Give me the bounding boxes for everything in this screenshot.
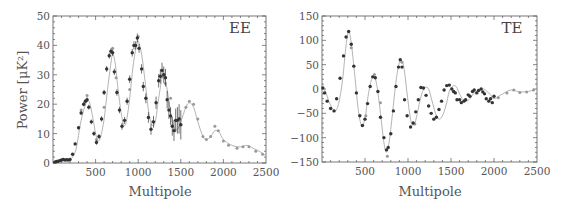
ee-y-axis-label: Power [μK²] (15, 51, 30, 130)
svg-text:150: 150 (299, 10, 319, 22)
svg-text:2500: 2500 (524, 165, 551, 177)
chart-canvas: 500100015002000250001020304050 EE Multip… (0, 0, 564, 204)
svg-text:20: 20 (37, 98, 50, 110)
svg-text:50: 50 (37, 10, 50, 22)
svg-text:2500: 2500 (253, 166, 280, 178)
svg-text:2000: 2000 (210, 166, 237, 178)
ee-panel: 500100015002000250001020304050 EE Multip… (15, 10, 279, 199)
svg-text:500: 500 (86, 166, 106, 178)
svg-text:1000: 1000 (125, 166, 152, 178)
svg-text:1500: 1500 (438, 165, 465, 177)
te-model-curve (322, 32, 537, 153)
svg-text:0: 0 (43, 157, 50, 169)
svg-text:−150: −150 (290, 156, 319, 168)
ee-x-axis-label: Multipole (128, 184, 192, 199)
svg-text:30: 30 (37, 69, 50, 81)
svg-text:40: 40 (37, 39, 50, 51)
svg-text:−50: −50 (297, 107, 319, 119)
te-plot-frame (322, 16, 537, 162)
svg-text:500: 500 (355, 165, 375, 177)
svg-text:100: 100 (299, 34, 319, 46)
svg-text:1000: 1000 (395, 165, 422, 177)
svg-text:1500: 1500 (167, 166, 194, 178)
ee-plot-frame (53, 16, 266, 163)
te-panel: 5001000150020002500−150−100−50050100150 … (290, 10, 550, 199)
te-panel-label: TE (502, 19, 523, 37)
svg-text:0: 0 (312, 83, 319, 95)
svg-text:2000: 2000 (481, 165, 508, 177)
svg-text:50: 50 (306, 59, 319, 71)
te-x-axis-label: Multipole (398, 184, 462, 199)
ee-panel-label: EE (229, 19, 251, 37)
svg-text:−100: −100 (290, 132, 319, 144)
svg-text:10: 10 (37, 128, 50, 140)
